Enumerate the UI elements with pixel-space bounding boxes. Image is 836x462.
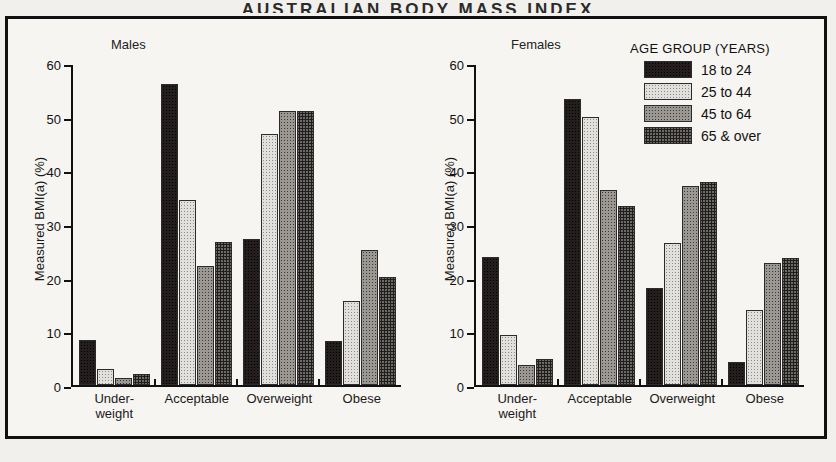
y-tick-label: 30: [450, 219, 464, 234]
chart-panel: Males Measured BMI(a) (%) 0102030405060 …: [5, 16, 827, 439]
bar[interactable]: [179, 200, 196, 385]
bar[interactable]: [379, 277, 396, 385]
legend-item[interactable]: 25 to 44: [622, 83, 810, 100]
y-tick-label: 60: [450, 58, 464, 73]
bar-group: [476, 65, 558, 385]
x-tick-label: Obese: [321, 391, 404, 421]
legend-label: 25 to 44: [701, 84, 752, 100]
legend-item[interactable]: 45 to 64: [622, 105, 810, 122]
bar[interactable]: [582, 117, 599, 385]
bar[interactable]: [618, 206, 635, 385]
bar[interactable]: [325, 341, 342, 385]
bar[interactable]: [682, 186, 699, 385]
x-tick-label: Under-weight: [476, 391, 559, 421]
x-tick-label: Acceptable: [559, 391, 642, 421]
chart-males: Males Measured BMI(a) (%) 0102030405060 …: [16, 29, 416, 429]
legend-label: 45 to 64: [701, 106, 752, 122]
bar[interactable]: [536, 359, 553, 385]
y-tick-mark: [467, 226, 474, 228]
legend-item[interactable]: 18 to 24: [622, 61, 810, 78]
bar[interactable]: [564, 99, 581, 385]
y-tick-mark: [467, 119, 474, 121]
y-tick-mark: [467, 172, 474, 174]
y-tick-label: 40: [47, 165, 61, 180]
y-tick-mark: [64, 65, 71, 67]
y-tick-mark: [64, 280, 71, 282]
bar[interactable]: [518, 365, 535, 385]
legend-rows: 18 to 2425 to 4445 to 6465 & over: [622, 61, 810, 144]
bar[interactable]: [215, 242, 232, 385]
bar-group: [155, 65, 237, 385]
legend-swatch-icon: [644, 105, 692, 122]
bar[interactable]: [646, 288, 663, 385]
y-tick-label: 0: [54, 380, 61, 395]
y-tick-mark: [64, 333, 71, 335]
y-tick-label: 40: [450, 165, 464, 180]
bar[interactable]: [261, 134, 278, 385]
y-tick-label: 0: [457, 380, 464, 395]
legend: AGE GROUP (YEARS) 18 to 2425 to 4445 to …: [622, 41, 810, 149]
x-tick-label: Acceptable: [156, 391, 239, 421]
bar[interactable]: [297, 111, 314, 385]
x-tick-label: Obese: [724, 391, 807, 421]
y-tick-mark: [467, 387, 474, 389]
bar[interactable]: [97, 369, 114, 385]
bar[interactable]: [764, 263, 781, 385]
bar[interactable]: [746, 310, 763, 385]
bar[interactable]: [133, 374, 150, 385]
legend-swatch-icon: [644, 61, 692, 78]
chart-title-males: Males: [111, 37, 146, 52]
legend-swatch-icon: [644, 127, 692, 144]
y-tick-mark: [467, 280, 474, 282]
legend-item[interactable]: 65 & over: [622, 127, 810, 144]
legend-swatch-icon: [644, 83, 692, 100]
bar[interactable]: [700, 182, 717, 385]
y-tick-label: 30: [47, 219, 61, 234]
bar[interactable]: [243, 239, 260, 385]
y-tick-mark: [64, 119, 71, 121]
legend-title: AGE GROUP (YEARS): [630, 41, 810, 56]
y-tick-label: 50: [47, 111, 61, 126]
bar[interactable]: [279, 111, 296, 385]
x-tick-label: Overweight: [641, 391, 724, 421]
legend-label: 65 & over: [701, 128, 761, 144]
page-title: AUSTRALIAN BODY MASS INDEX: [0, 0, 836, 13]
y-tick-mark: [64, 226, 71, 228]
plot-area-males: 0102030405060: [71, 65, 401, 387]
y-tick-label: 50: [450, 111, 464, 126]
bar-group: [73, 65, 155, 385]
bar[interactable]: [782, 258, 799, 385]
bar[interactable]: [79, 340, 96, 385]
bar-groups-males: [73, 65, 401, 385]
bar[interactable]: [343, 301, 360, 385]
legend-label: 18 to 24: [701, 62, 752, 78]
y-tick-mark: [467, 65, 474, 67]
y-tick-label: 10: [47, 326, 61, 341]
bar[interactable]: [161, 84, 178, 385]
bar[interactable]: [664, 243, 681, 385]
y-tick-mark: [64, 387, 71, 389]
x-tick-labels-females: Under-weightAcceptableOverweightObese: [476, 391, 806, 421]
bar[interactable]: [728, 362, 745, 385]
bar[interactable]: [600, 190, 617, 385]
y-tick-label: 20: [47, 272, 61, 287]
bar[interactable]: [197, 266, 214, 385]
y-tick-label: 10: [450, 326, 464, 341]
bar[interactable]: [115, 378, 132, 385]
bar[interactable]: [361, 250, 378, 385]
x-tick-label: Overweight: [238, 391, 321, 421]
chart-title-females: Females: [511, 37, 561, 52]
y-tick-mark: [64, 172, 71, 174]
x-tick-label: Under-weight: [73, 391, 156, 421]
x-tick-labels-males: Under-weightAcceptableOverweightObese: [73, 391, 403, 421]
bar[interactable]: [500, 335, 517, 385]
bar-group: [237, 65, 319, 385]
y-tick-label: 20: [450, 272, 464, 287]
y-axis-label-males: Measured BMI(a) (%): [32, 109, 47, 329]
y-tick-label: 60: [47, 58, 61, 73]
bar[interactable]: [482, 257, 499, 385]
bar-group: [319, 65, 401, 385]
y-tick-mark: [467, 333, 474, 335]
